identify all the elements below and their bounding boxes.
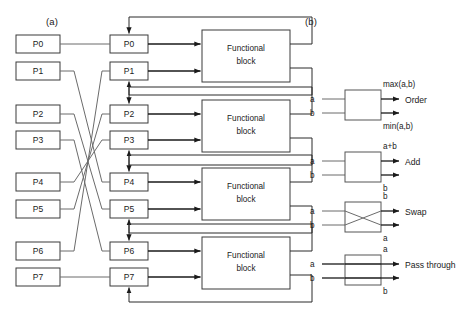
- op-output-bottom-label: min(a,b): [383, 122, 413, 131]
- op-input-a-label: a: [310, 95, 315, 104]
- op-input-b-label: b: [310, 274, 315, 283]
- functional-block-line1: Functional: [227, 182, 265, 191]
- input-register-label: P6: [33, 246, 44, 256]
- stage-register-label: P7: [124, 272, 135, 282]
- stage-register-label: P2: [124, 109, 135, 119]
- perm-wire-p5-to-p2: [60, 114, 110, 209]
- functional-block-line1: Functional: [227, 114, 265, 123]
- functional-block-line2: block: [236, 195, 256, 204]
- op-output-top-label: a: [383, 245, 388, 254]
- perm-wire-p3-to-p6: [60, 140, 110, 251]
- input-register-column: P0P1P2P3P4P5P6P7: [16, 35, 60, 286]
- op-output-bottom-label: b: [383, 287, 388, 296]
- op-name-label: Swap: [405, 207, 427, 217]
- op-input-a-label: a: [310, 157, 315, 166]
- operation-box-pass-through: [345, 255, 381, 285]
- op-input-b-label: b: [310, 221, 315, 230]
- functional-block-line2: block: [236, 127, 256, 136]
- op-input-b-label: b: [310, 171, 315, 180]
- op-output-top-label: b: [383, 192, 388, 201]
- functional-block-4: [202, 237, 290, 289]
- op-input-b-label: b: [310, 109, 315, 118]
- functional-block-line1: Functional: [227, 44, 265, 53]
- stage-register-label: P4: [124, 177, 135, 187]
- functional-block-3: [202, 168, 290, 220]
- operation-box-order: [345, 90, 381, 120]
- figure-container: (a) (b) P0P1P2P3P4P5P6P7 P0P1P2P3P4P5P6P…: [0, 0, 468, 316]
- stage-register-label: P0: [124, 39, 135, 49]
- input-register-label: P1: [33, 66, 44, 76]
- input-register-label: P2: [33, 109, 44, 119]
- operation-box-add: [345, 152, 381, 182]
- stage-register-label: P6: [124, 246, 135, 256]
- panel-b-operations: abmax(a,b)min(a,b)Orderaba+bbAddabbaSwap…: [310, 80, 456, 296]
- stage-register-label: P1: [124, 66, 135, 76]
- permutation-wires: [60, 44, 110, 277]
- perm-wire-p4-to-p3: [60, 140, 110, 182]
- functional-block-line2: block: [236, 57, 256, 66]
- op-output-top-label: max(a,b): [383, 80, 416, 89]
- functional-block-line2: block: [236, 264, 256, 273]
- figure-artwork: P0P1P2P3P4P5P6P7 P0P1P2P3P4P5P6P7 Functi…: [0, 0, 468, 316]
- op-name-label: Order: [405, 95, 427, 105]
- functional-block-line1: Functional: [227, 251, 265, 260]
- perm-wire-p6-to-p1: [60, 71, 110, 251]
- op-name-label: Add: [405, 157, 421, 167]
- input-register-label: P3: [33, 135, 44, 145]
- functional-block-1: [202, 30, 290, 82]
- op-input-a-label: a: [310, 260, 315, 269]
- op-output-bottom-label: a: [383, 234, 388, 243]
- functional-block-column: FunctionalblockFunctionalblockFunctional…: [148, 30, 290, 289]
- op-name-label: Pass through: [405, 260, 456, 270]
- stage-register-label: P3: [124, 135, 135, 145]
- op-output-top-label: a+b: [383, 142, 397, 151]
- input-register-label: P4: [33, 177, 44, 187]
- input-register-label: P0: [33, 39, 44, 49]
- stage-register-label: P5: [124, 204, 135, 214]
- perm-wire-p2-to-p5: [60, 114, 110, 209]
- op-input-a-label: a: [310, 207, 315, 216]
- operation-box-swap: [345, 202, 381, 232]
- functional-block-2: [202, 100, 290, 152]
- input-register-label: P5: [33, 204, 44, 214]
- input-register-label: P7: [33, 272, 44, 282]
